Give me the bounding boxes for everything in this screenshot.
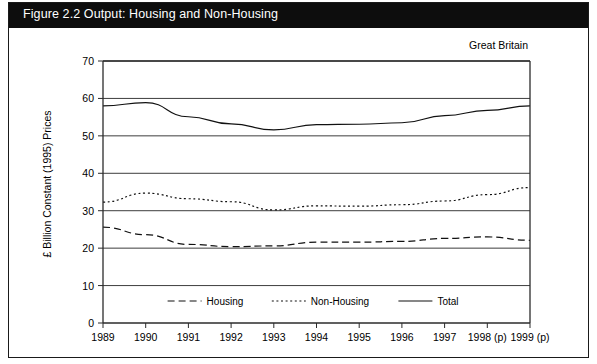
- x-axis-tick-label: 1995: [348, 331, 372, 343]
- axis-lines-group: [103, 61, 530, 323]
- y-axis-tick-label: 0: [88, 317, 94, 329]
- x-axis-tick-label: 1996: [390, 331, 414, 343]
- gridlines-group: [103, 61, 530, 286]
- x-axis-tick-label: 1997: [433, 331, 457, 343]
- line-chart: 010203040506070 198919901991199219931994…: [9, 3, 590, 359]
- y-axis-tick-label: 30: [82, 205, 94, 217]
- series-line-non-housing: [103, 188, 530, 210]
- chart-plot-area: 010203040506070 198919901991199219931994…: [9, 3, 590, 359]
- y-axis-tick-label: 10: [82, 280, 94, 292]
- series-line-total: [103, 103, 530, 130]
- y-axis-tick-label: 70: [82, 55, 94, 67]
- chart-legend: HousingNon-HousingTotal: [168, 296, 459, 307]
- x-axis-tick-label: 1992: [219, 331, 243, 343]
- legend-label-housing: Housing: [207, 296, 244, 307]
- x-axis-tick-label: 1998 (p): [468, 331, 507, 343]
- y-axis-tick-label: 40: [82, 167, 94, 179]
- x-axis-tick-label: 1994: [305, 331, 329, 343]
- y-axis-ticks-group: 010203040506070: [82, 55, 103, 329]
- y-axis-tick-label: 20: [82, 242, 94, 254]
- figure-container: Figure 2.2 Output: Housing and Non-Housi…: [8, 2, 589, 358]
- x-axis-tick-label: 1999 (p): [510, 331, 549, 343]
- series-line-housing: [103, 227, 530, 246]
- y-axis-tick-label: 60: [82, 92, 94, 104]
- x-axis-tick-label: 1993: [262, 331, 286, 343]
- x-axis-tick-label: 1990: [134, 331, 158, 343]
- y-axis-tick-label: 50: [82, 130, 94, 142]
- x-axis-tick-label: 1991: [177, 331, 201, 343]
- legend-label-total: Total: [437, 296, 458, 307]
- x-axis-tick-label: 1989: [91, 331, 115, 343]
- x-axis-ticks-group: 1989199019911992199319941995199619971998…: [91, 323, 549, 343]
- data-series-group: [103, 103, 530, 247]
- legend-label-non-housing: Non-Housing: [311, 296, 369, 307]
